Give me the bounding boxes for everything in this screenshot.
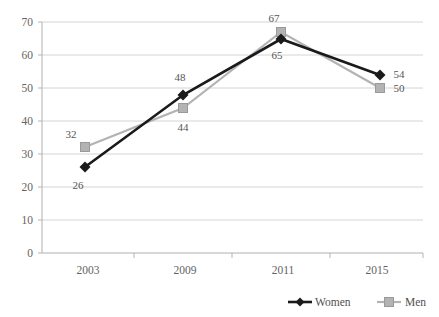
y-axis-label-30: 30: [22, 148, 34, 160]
line-chart: 70 60 50 40 30 20 10 0 2003 2009 2011 20…: [0, 0, 439, 317]
marker-men-2015: [376, 84, 385, 93]
x-tick-marks: [134, 253, 423, 258]
series-markers-women: [80, 34, 386, 173]
chart-canvas: 70 60 50 40 30 20 10 0 2003 2009 2011 20…: [0, 0, 439, 317]
data-label-women-2009: 48: [175, 71, 187, 83]
x-axis-label-2009: 2009: [174, 264, 197, 276]
y-axis-label-40: 40: [22, 115, 34, 127]
data-label-women-2011: 65: [272, 49, 284, 61]
y-axis-label-70: 70: [22, 16, 34, 28]
y-axis-label-20: 20: [22, 181, 34, 193]
series-markers-men: [81, 28, 385, 152]
gridlines: [42, 22, 423, 220]
marker-men-2003: [81, 143, 90, 152]
legend: Women Men: [288, 296, 426, 308]
x-axis-label-2003: 2003: [77, 264, 100, 276]
legend-label-women: Women: [315, 296, 351, 308]
data-label-women-2015: 54: [394, 68, 406, 80]
marker-women-2015: [375, 70, 386, 81]
y-axis-labels: 70 60 50 40 30 20 10 0: [22, 16, 34, 259]
legend-marker-men-square-icon: [385, 298, 394, 307]
data-label-men-2011: 67: [269, 12, 281, 24]
y-tick-marks: [38, 22, 42, 253]
x-axis-labels: 2003 2009 2011 2015: [77, 264, 389, 276]
series-line-men: [85, 32, 380, 147]
x-axis-label-2015: 2015: [366, 264, 389, 276]
marker-men-2009: [179, 104, 188, 113]
y-axis-label-10: 10: [22, 214, 34, 226]
y-axis-label-50: 50: [22, 82, 34, 94]
series-line-women: [85, 39, 380, 167]
data-label-women-2003: 26: [73, 179, 85, 191]
data-label-men-2015: 50: [394, 82, 406, 94]
legend-item-men[interactable]: Men: [377, 296, 426, 308]
x-axis-label-2011: 2011: [272, 264, 295, 276]
y-axis-label-0: 0: [27, 247, 33, 259]
data-label-men-2003: 32: [66, 128, 77, 140]
data-labels-women: 26 48 65 54: [73, 49, 406, 191]
data-label-men-2009: 44: [178, 121, 190, 133]
legend-item-women[interactable]: Women: [288, 296, 351, 308]
legend-label-men: Men: [405, 296, 426, 308]
y-axis-label-60: 60: [22, 49, 34, 61]
legend-marker-women-diamond-icon: [296, 298, 305, 307]
